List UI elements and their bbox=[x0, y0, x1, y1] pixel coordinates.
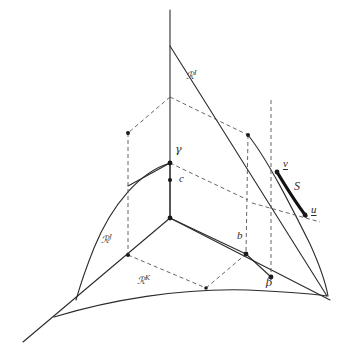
dot-left-box-bottom bbox=[126, 253, 130, 257]
label-region-i: ℛI bbox=[186, 70, 197, 81]
gamma-left-rib bbox=[128, 163, 170, 186]
label-region-j-base: ℛ bbox=[101, 234, 109, 245]
figure-container: ℛI ℛJ ℛK γ c b β v u S bbox=[0, 0, 349, 354]
dot-left-box-top bbox=[126, 131, 130, 135]
label-region-k-base: ℛ bbox=[137, 275, 145, 286]
label-region-j-sup: J bbox=[109, 233, 112, 241]
diagram-canvas bbox=[0, 0, 349, 354]
dashed-right-vertical-inner bbox=[246, 135, 248, 254]
right-boundary-curve bbox=[248, 135, 328, 296]
dot-c bbox=[168, 178, 172, 182]
label-beta: β bbox=[266, 277, 272, 288]
left-boundary-curve bbox=[76, 163, 170, 300]
dot-u bbox=[303, 213, 308, 218]
label-region-k-sup: K bbox=[145, 274, 150, 282]
lower-right-edge bbox=[170, 218, 330, 300]
dot-base-mid bbox=[204, 286, 208, 290]
label-segment-S: S bbox=[294, 180, 300, 192]
label-region-i-base: ℛ bbox=[186, 70, 194, 81]
label-region-i-sup: I bbox=[194, 69, 197, 77]
vertex-dot-group bbox=[126, 131, 307, 290]
dashed-base-right bbox=[206, 254, 246, 288]
label-region-j: ℛJ bbox=[101, 234, 112, 245]
label-gamma: γ bbox=[175, 144, 182, 155]
label-c: c bbox=[179, 173, 184, 184]
label-vector-v: v bbox=[283, 158, 288, 169]
segment-S-highlight bbox=[277, 172, 306, 216]
dot-right-box-top bbox=[246, 133, 250, 137]
label-region-k: ℛK bbox=[137, 275, 150, 286]
dashed-tangent-tick bbox=[252, 203, 320, 222]
dashed-apex-to-right-top bbox=[170, 97, 248, 135]
label-b: b bbox=[237, 230, 243, 241]
origin-to-b-edge bbox=[170, 218, 246, 254]
dot-v bbox=[275, 170, 280, 175]
b-to-beta-rib bbox=[246, 254, 271, 277]
dashed-apex-to-left-top bbox=[128, 97, 170, 133]
bottom-boundary-curve bbox=[54, 290, 327, 317]
dot-b bbox=[244, 252, 249, 257]
label-vector-u: u bbox=[311, 204, 317, 215]
dot-gamma bbox=[168, 161, 173, 166]
dot-origin bbox=[168, 216, 173, 221]
